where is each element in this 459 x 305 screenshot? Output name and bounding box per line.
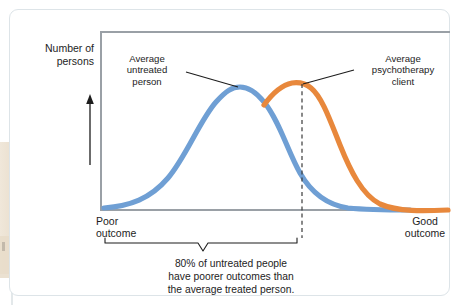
callout-untreated-line-1: Average bbox=[129, 53, 165, 64]
caption-line-2: have poorer outcomes than bbox=[128, 271, 334, 284]
callout-treated-line-3: client bbox=[392, 76, 414, 87]
callout-treated-line-1: Average bbox=[385, 53, 421, 64]
scanned-page-mark bbox=[2, 242, 5, 251]
callout-average-untreated-person: Average untreated person bbox=[108, 53, 186, 87]
caption-line-3: the average treated person. bbox=[128, 284, 334, 297]
poor-outcome-line-2: outcome bbox=[96, 227, 136, 239]
callout-average-psychotherapy-client: Average psychotherapy client bbox=[356, 53, 450, 87]
y-axis-title-line-2: persons bbox=[57, 55, 94, 67]
figure-caption: 80% of untreated people have poorer outc… bbox=[128, 258, 334, 296]
good-outcome-line-2: outcome bbox=[405, 227, 445, 239]
x-axis-line bbox=[100, 209, 450, 211]
x-axis-label-good-outcome: Good outcome bbox=[396, 215, 454, 240]
poor-outcome-line-1: Poor bbox=[96, 215, 118, 227]
good-outcome-line-1: Good bbox=[412, 215, 438, 227]
callout-treated-line-2: psychotherapy bbox=[372, 64, 434, 75]
caption-line-1: 80% of untreated people bbox=[128, 258, 334, 271]
y-axis-title-line-1: Number of bbox=[45, 42, 94, 54]
psychotherapy-outcome-figure: Number of persons Average untreated pers… bbox=[0, 0, 459, 305]
callout-untreated-line-3: person bbox=[132, 76, 161, 87]
y-axis-up-arrow-icon bbox=[84, 93, 96, 165]
callout-untreated-line-2: untreated bbox=[127, 64, 168, 75]
x-axis-label-poor-outcome: Poor outcome bbox=[96, 215, 154, 240]
y-axis-title: Number of persons bbox=[22, 42, 94, 67]
